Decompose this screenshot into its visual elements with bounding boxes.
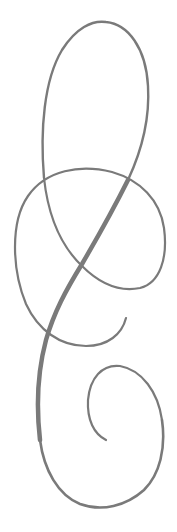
- top-loop: [43, 22, 149, 180]
- main-stroke-lower: [40, 420, 163, 508]
- middle-loop: [15, 169, 165, 346]
- flourish-artwork: [0, 0, 177, 532]
- bottom-curl: [88, 366, 162, 440]
- flourish-icon: [0, 0, 177, 532]
- main-stroke: [38, 180, 128, 440]
